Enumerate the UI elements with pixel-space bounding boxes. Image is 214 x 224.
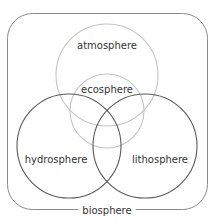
hydrosphere-label: hydrosphere (25, 154, 88, 165)
lithosphere-label: lithosphere (132, 154, 188, 165)
spheres-venn-diagram: atmosphere ecosphere hydrosphere lithosp… (0, 0, 214, 224)
ecosphere-label: ecosphere (81, 84, 133, 95)
atmosphere-label: atmosphere (77, 40, 137, 51)
biosphere-label: biosphere (82, 205, 131, 216)
